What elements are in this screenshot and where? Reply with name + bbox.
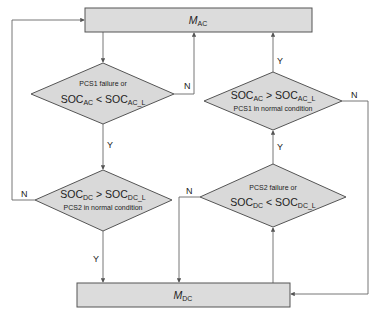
flowchart: MAC MDC PCS1 failure or SOCAC < SOCAC_L … — [0, 0, 377, 313]
decision-pcs2-failure-or-soc-dc-low: PCS2 failure or SOCDC < SOCDC_L — [200, 164, 346, 227]
node-m-dc: MDC — [77, 283, 290, 307]
label-d4-no: N — [186, 186, 193, 196]
d4-line1: PCS2 failure or — [249, 184, 297, 191]
d2-line2: PCS1 in normal condition — [234, 105, 313, 112]
label-d2-no: N — [351, 90, 358, 100]
label-d1-yes: Y — [107, 140, 113, 150]
label-d4-yes: Y — [277, 142, 283, 152]
d1-line1: PCS1 failure or — [79, 80, 127, 87]
node-m-ac: MAC — [85, 8, 312, 32]
label-d2-yes: Y — [277, 56, 283, 66]
label-d3-no: N — [21, 189, 28, 199]
decision-soc-ac-high-pcs1-normal: SOCAC > SOCAC_L PCS1 in normal condition — [204, 72, 342, 130]
label-d3-yes: Y — [93, 254, 99, 264]
label-d1-no: N — [184, 81, 191, 91]
decision-pcs1-failure-or-soc-ac-low: PCS1 failure or SOCAC < SOCAC_L — [31, 63, 174, 124]
d3-line2: PCS2 in normal condition — [64, 204, 143, 211]
decision-soc-dc-high-pcs2-normal: SOCDC > SOCDC_L PCS2 in normal condition — [35, 170, 172, 231]
edge-d4-no-to-mdc — [179, 197, 200, 282]
